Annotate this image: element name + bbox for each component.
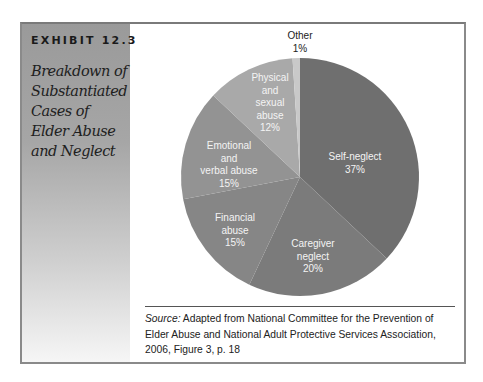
label-financial-pct: 15% bbox=[215, 237, 255, 250]
label-physical-line4: abuse bbox=[251, 110, 288, 123]
source-text: Adapted from National Committee for the … bbox=[145, 313, 436, 355]
label-self-neglect-name: Self-neglect bbox=[329, 151, 382, 164]
label-self-neglect: Self-neglect 37% bbox=[329, 151, 382, 176]
label-emotional-abuse: Emotional and verbal abuse 15% bbox=[200, 140, 257, 190]
label-physical-line2: and bbox=[251, 85, 288, 98]
source-note: Source: Adapted from National Committee … bbox=[145, 311, 460, 358]
label-financial-abuse: Financial abuse 15% bbox=[215, 212, 255, 250]
label-emotional-line3: verbal abuse bbox=[200, 165, 257, 178]
label-financial-line1: Financial bbox=[215, 212, 255, 225]
label-other-name: Other bbox=[287, 30, 312, 43]
label-caregiver-neglect: Caregiver neglect 20% bbox=[291, 238, 334, 276]
label-physical-pct: 12% bbox=[251, 122, 288, 135]
label-caregiver-line2: neglect bbox=[291, 251, 334, 264]
label-physical-abuse: Physical and sexual abuse 12% bbox=[251, 72, 288, 135]
label-physical-line1: Physical bbox=[251, 72, 288, 85]
label-emotional-line1: Emotional bbox=[200, 140, 257, 153]
source-divider bbox=[145, 306, 455, 307]
label-self-neglect-pct: 37% bbox=[329, 164, 382, 177]
label-other-pct: 1% bbox=[287, 43, 312, 56]
label-caregiver-pct: 20% bbox=[291, 263, 334, 276]
source-label: Source: bbox=[145, 313, 181, 324]
label-caregiver-line1: Caregiver bbox=[291, 238, 334, 251]
label-emotional-line2: and bbox=[200, 153, 257, 166]
label-emotional-pct: 15% bbox=[200, 178, 257, 191]
label-financial-line2: abuse bbox=[215, 225, 255, 238]
label-physical-line3: sexual bbox=[251, 97, 288, 110]
label-other: Other 1% bbox=[287, 30, 312, 55]
